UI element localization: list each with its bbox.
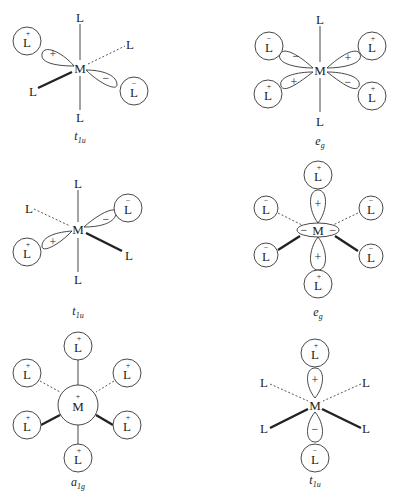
- bond-front-right: [86, 233, 122, 251]
- ligand-label: L: [260, 375, 268, 390]
- ligand-sign: +: [126, 413, 131, 422]
- lobe-sign: −: [293, 49, 300, 63]
- bond-back-left: [278, 213, 302, 225]
- ligand-sign: +: [371, 84, 376, 93]
- lobe-sign: +: [50, 235, 57, 249]
- panel-t1u-3: + − L + L − L L L L M t1u: [260, 339, 370, 489]
- ligand-sign: −: [369, 244, 374, 253]
- metal-label: M: [72, 222, 84, 237]
- ligand-label: L: [126, 37, 134, 52]
- orbital-lobe-minus: [327, 72, 359, 89]
- ligand-sign: −: [264, 196, 269, 205]
- panel-eg-2: + + − − L + L + L − L − L − L − M eg: [254, 161, 383, 321]
- lobe-sign: +: [291, 75, 298, 89]
- ligand-sign: +: [314, 341, 319, 350]
- ligand-label: L: [316, 12, 324, 27]
- bond-back-right: [96, 381, 114, 392]
- lobe-sign: −: [103, 71, 110, 85]
- lobe-sign: +: [345, 51, 352, 65]
- bond-front-left: [278, 236, 300, 250]
- metal-label: M: [309, 398, 321, 413]
- panel-eg-1: − + + − L − L + L + L + L L M eg: [254, 12, 386, 150]
- ligand-sign: +: [26, 413, 31, 422]
- symmetry-caption: eg: [315, 134, 324, 150]
- ligand-label: L: [362, 421, 370, 436]
- ligand-label: L: [29, 84, 37, 99]
- ligand-sign: −: [264, 243, 269, 252]
- bond-front-left: [41, 415, 60, 425]
- ligand-sign: +: [371, 34, 376, 43]
- bond-front-left: [38, 72, 72, 88]
- ligand-sign: +: [126, 361, 131, 370]
- symmetry-caption: t1u: [309, 473, 320, 489]
- ligand-label: L: [316, 114, 324, 129]
- ligand-sign: +: [267, 82, 272, 91]
- panel-t1u-1: + − L + L − L L L L M t1u: [13, 10, 148, 145]
- bond-front-right: [96, 415, 113, 425]
- metal-label: M: [314, 63, 326, 78]
- ligand-sign: −: [369, 196, 374, 205]
- symmetry-caption: a1g: [71, 475, 85, 491]
- bond-front-right: [322, 409, 361, 428]
- lobe-sign: −: [103, 212, 110, 226]
- orbital-lobe-minus: [86, 70, 117, 87]
- metal-label: M: [74, 61, 86, 76]
- ligand-sign: +: [77, 334, 82, 343]
- ligand-label: L: [260, 421, 268, 436]
- metal-sign: +: [76, 392, 81, 401]
- panel-a1g: M + L + L + L + L + L + L + a1g: [13, 332, 141, 491]
- lobe-sign: −: [345, 75, 352, 89]
- ligand-sign: +: [26, 240, 31, 249]
- ligand-sign: +: [77, 446, 82, 455]
- ligand-sign: +: [26, 29, 31, 38]
- ligand-label: L: [125, 248, 133, 263]
- bond-back-right: [333, 213, 358, 225]
- ligand-sign: +: [317, 272, 322, 281]
- symmetry-caption: eg: [313, 305, 322, 321]
- ligand-label: L: [74, 176, 82, 191]
- lobe-sign: −: [330, 223, 337, 237]
- orbital-lobe-plus: [42, 231, 72, 249]
- orbital-diagram: + − L + L − L L L L M t1u − + + − L − L: [0, 0, 398, 499]
- ligand-sign: −: [132, 79, 137, 88]
- metal-label: M: [312, 223, 324, 238]
- bond-back-right: [323, 384, 361, 401]
- lobe-sign: +: [315, 197, 322, 211]
- lobe-sign: +: [312, 373, 319, 387]
- bond-back-right: [88, 46, 125, 64]
- ligand-label: L: [362, 375, 370, 390]
- lobe-sign: +: [50, 47, 57, 61]
- bond-back-left: [270, 384, 308, 401]
- bond-back-left: [34, 209, 70, 226]
- ligand-label: L: [74, 272, 82, 287]
- metal-label: M: [72, 399, 84, 414]
- ligand-label: L: [25, 201, 33, 216]
- ligand-sign: −: [126, 196, 131, 205]
- symmetry-caption: t1u: [74, 129, 85, 145]
- orbital-lobe-minus: [84, 210, 116, 227]
- bond-front-right: [335, 236, 358, 251]
- ligand-sign: −: [267, 34, 272, 43]
- lobe-sign: −: [301, 223, 308, 237]
- ligand-sign: +: [26, 361, 31, 370]
- symmetry-caption: t1u: [72, 304, 83, 320]
- bond-back-left: [40, 381, 60, 392]
- ligand-label: L: [76, 10, 84, 25]
- orbital-lobe-plus: [42, 50, 74, 66]
- lobe-sign: −: [312, 422, 319, 436]
- ligand-sign: −: [313, 446, 318, 455]
- panel-t1u-2: + − L + L − L L L L M t1u: [13, 176, 142, 320]
- lobe-sign: +: [315, 250, 322, 264]
- ligand-label: L: [76, 110, 84, 125]
- ligand-sign: +: [317, 163, 322, 172]
- bond-front-left: [270, 409, 308, 428]
